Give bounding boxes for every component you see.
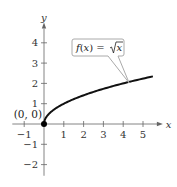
curve-layer	[44, 76, 153, 124]
x-axis-label: x	[166, 119, 172, 130]
x-tick-label: 4	[120, 129, 126, 140]
x-tick-label: 5	[140, 129, 146, 140]
y-tick-label: 4	[32, 37, 38, 48]
x-axis-arrow	[157, 122, 163, 126]
y-tick-label: 2	[32, 78, 38, 89]
x-tick-label: 1	[61, 129, 67, 140]
chart: xy −112345−2−11234 f(x) = x (0, 0)	[0, 0, 177, 187]
ticks: −112345−2−11234	[17, 37, 146, 170]
x-tick-label: 3	[100, 129, 106, 140]
y-tick-label: −2	[23, 159, 38, 170]
function-callout: f(x) = x	[72, 39, 129, 83]
y-axis-label: y	[40, 12, 47, 23]
radical-argument: x	[117, 42, 123, 53]
function-label: f(x) =	[75, 42, 105, 53]
axes: xy	[12, 12, 172, 176]
point-label: (0, 0)	[14, 108, 42, 120]
point-origin	[41, 121, 47, 127]
y-axis-arrow	[42, 23, 46, 29]
y-tick-label: 3	[32, 58, 38, 69]
series-line-sqrt	[44, 76, 153, 124]
x-tick-label: 2	[80, 129, 86, 140]
y-tick-label: −1	[23, 139, 38, 150]
